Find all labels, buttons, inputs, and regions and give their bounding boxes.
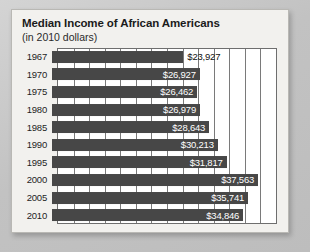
category-label-2000: 2000 <box>22 171 52 189</box>
category-label-1980: 1980 <box>22 101 52 119</box>
bar-value-label-1970: $26,927 <box>163 69 200 80</box>
bar-track: $23,927 <box>52 48 277 66</box>
chart-row: 1995$31,817 <box>22 154 277 172</box>
bar-value-label-1967: $23,927 <box>183 51 220 62</box>
bar-track: $34,846 <box>52 206 277 224</box>
category-label-1967: 1967 <box>22 48 52 66</box>
bar-value-label-2005: $35,741 <box>211 192 248 203</box>
bar-value-label-2010: $34,846 <box>206 210 243 221</box>
bar-1985: $28,643 <box>52 121 209 133</box>
bar-value-label-1990: $30,213 <box>181 139 218 150</box>
bar-1967: $23,927 <box>52 51 183 63</box>
bar-value-label-1995: $31,817 <box>190 157 227 168</box>
chart-row: 1980$26,979 <box>22 101 277 119</box>
bar-track: $26,979 <box>52 101 277 119</box>
bar-1995: $31,817 <box>52 156 227 168</box>
bar-2010: $34,846 <box>52 209 243 221</box>
bar-1970: $26,927 <box>52 68 200 80</box>
category-label-2010: 2010 <box>22 206 52 224</box>
chart-row: 1985$28,643 <box>22 118 277 136</box>
chart-row: 2000$37,563 <box>22 171 277 189</box>
category-label-1970: 1970 <box>22 66 52 84</box>
bar-2000: $37,563 <box>52 174 258 186</box>
chart-row: 2010$34,846 <box>22 206 277 224</box>
bar-track: $30,213 <box>52 136 277 154</box>
bar-1980: $26,979 <box>52 104 200 116</box>
bar-track: $35,741 <box>52 189 277 207</box>
chart-row: 1970$26,927 <box>22 66 277 84</box>
chart-row: 1967$23,927 <box>22 48 277 66</box>
category-label-1990: 1990 <box>22 136 52 154</box>
bar-1975: $26,462 <box>52 86 197 98</box>
bar-1990: $30,213 <box>52 139 218 151</box>
bar-2005: $35,741 <box>52 192 248 204</box>
bar-value-label-1985: $28,643 <box>172 122 209 133</box>
chart-card: Median Income of African Americans (in 2… <box>11 9 289 233</box>
chart-row: 2005$35,741 <box>22 189 277 207</box>
bar-track: $28,643 <box>52 118 277 136</box>
chart-row: 1975$26,462 <box>22 83 277 101</box>
bar-track: $26,927 <box>52 66 277 84</box>
bar-value-label-2000: $37,563 <box>221 174 258 185</box>
bar-track: $26,462 <box>52 83 277 101</box>
chart-plot-area: 1967$23,9271970$26,9271975$26,4621980$26… <box>22 48 277 224</box>
category-label-1985: 1985 <box>22 118 52 136</box>
category-label-2005: 2005 <box>22 189 52 207</box>
chart-row: 1990$30,213 <box>22 136 277 154</box>
bar-value-label-1975: $26,462 <box>160 86 197 97</box>
category-label-1975: 1975 <box>22 83 52 101</box>
bar-track: $37,563 <box>52 171 277 189</box>
bar-value-label-1980: $26,979 <box>163 104 200 115</box>
chart-rows: 1967$23,9271970$26,9271975$26,4621980$26… <box>22 48 277 224</box>
chart-subtitle: (in 2010 dollars) <box>22 31 97 43</box>
bar-track: $31,817 <box>52 154 277 172</box>
chart-title: Median Income of African Americans <box>22 17 220 29</box>
category-label-1995: 1995 <box>22 154 52 172</box>
